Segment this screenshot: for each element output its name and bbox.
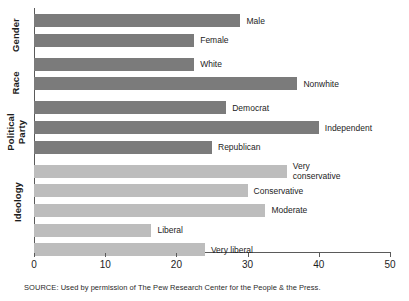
x-tick-label-10: 10 bbox=[100, 259, 111, 270]
bar-label-independent: Independent bbox=[325, 123, 372, 133]
group-label-political-party-line2: Party bbox=[17, 105, 27, 159]
bar-democrat bbox=[34, 101, 226, 114]
bar-label-moderate: Moderate bbox=[271, 205, 307, 215]
bar-liberal bbox=[34, 224, 151, 237]
bar-male bbox=[34, 14, 240, 27]
bar-label-nonwhite: Nonwhite bbox=[303, 79, 338, 89]
group-label-ideology: Ideology bbox=[13, 177, 23, 227]
x-tick-30 bbox=[248, 253, 249, 257]
x-tick-40 bbox=[319, 253, 320, 257]
bar-row: Democrat bbox=[34, 101, 390, 114]
group-label-political-party-line1: Political bbox=[6, 105, 16, 159]
x-tick-10 bbox=[105, 253, 106, 257]
horizontal-bar-chart: Gender Race Political Party Ideology Mal… bbox=[0, 0, 409, 301]
bar-label-republican: Republican bbox=[218, 142, 261, 152]
bar-label-democrat: Democrat bbox=[232, 103, 269, 113]
bar-row: Male bbox=[34, 14, 390, 27]
bar-nonwhite bbox=[34, 77, 297, 90]
bar-row: Liberal bbox=[34, 224, 390, 237]
bar-label-liberal: Liberal bbox=[157, 225, 183, 235]
bar-independent bbox=[34, 121, 319, 134]
bar-row: Very conservative bbox=[34, 165, 390, 178]
bar-label-male: Male bbox=[246, 16, 264, 26]
x-tick-label-0: 0 bbox=[31, 259, 37, 270]
x-tick-label-30: 30 bbox=[242, 259, 253, 270]
bar-row: Republican bbox=[34, 141, 390, 154]
bar-label-white: White bbox=[200, 59, 222, 69]
bar-row: Very liberal bbox=[34, 243, 390, 256]
bar-very-liberal bbox=[34, 243, 205, 256]
x-tick-20 bbox=[176, 253, 177, 257]
bar-conservative bbox=[34, 184, 248, 197]
bar-moderate bbox=[34, 204, 265, 217]
bar-republican bbox=[34, 141, 212, 154]
bar-white bbox=[34, 58, 194, 71]
x-tick-0 bbox=[34, 253, 35, 257]
bar-row: Nonwhite bbox=[34, 77, 390, 90]
bar-row: Moderate bbox=[34, 204, 390, 217]
bar-label-conservative: Conservative bbox=[254, 186, 304, 196]
bar-label-very-conservative: Very conservative bbox=[293, 161, 349, 181]
x-tick-label-40: 40 bbox=[313, 259, 324, 270]
bar-row: Independent bbox=[34, 121, 390, 134]
group-label-gender: Gender bbox=[11, 13, 21, 57]
x-tick-label-50: 50 bbox=[384, 259, 395, 270]
x-tick-label-20: 20 bbox=[171, 259, 182, 270]
bar-female bbox=[34, 34, 194, 47]
bar-row: Conservative bbox=[34, 184, 390, 197]
bar-row: White bbox=[34, 58, 390, 71]
x-tick-50 bbox=[390, 253, 391, 257]
bar-very-conservative bbox=[34, 165, 287, 178]
bar-label-female: Female bbox=[200, 35, 228, 45]
source-note: SOURCE: Used by permission of The Pew Re… bbox=[24, 283, 321, 292]
group-label-race: Race bbox=[11, 61, 21, 105]
plot-area: MaleFemaleWhiteNonwhiteDemocratIndepende… bbox=[34, 8, 390, 252]
bar-row: Female bbox=[34, 34, 390, 47]
